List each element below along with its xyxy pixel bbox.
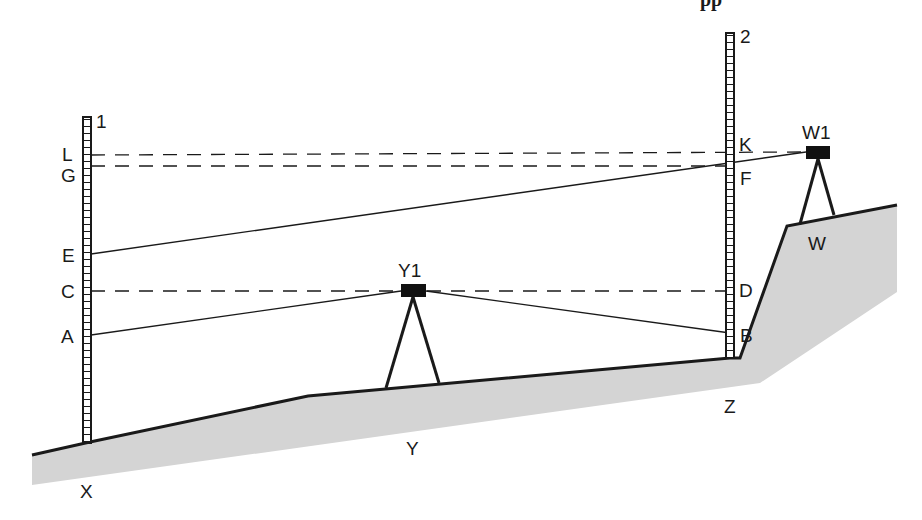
label-X: X xyxy=(80,481,93,502)
svg-text:1: 1 xyxy=(96,111,107,132)
staff-2: 2 xyxy=(726,26,751,358)
label-F: F xyxy=(740,168,752,189)
label-G: G xyxy=(61,165,76,186)
label-C: C xyxy=(61,281,75,302)
dashed-line-L-K xyxy=(91,152,806,155)
sight-line-A-Y1 xyxy=(91,291,401,335)
label-B: B xyxy=(740,325,753,346)
ground-surface xyxy=(32,205,897,485)
sight-line-E-W1 xyxy=(91,152,806,254)
label-L: L xyxy=(62,144,73,165)
label-E: E xyxy=(62,245,75,266)
label-A: A xyxy=(61,326,74,347)
leveling-diagram: pp 1 2 Y1 W1 L G E C A K xyxy=(0,0,922,520)
staff-1: 1 xyxy=(83,111,107,443)
label-Z: Z xyxy=(724,396,736,417)
label-K: K xyxy=(739,134,752,155)
label-W: W xyxy=(808,233,826,254)
label-Y: Y xyxy=(406,438,419,459)
cropped-title: pp xyxy=(700,0,722,11)
staff2-labels: K F D B xyxy=(739,134,753,346)
staff1-labels: L G E C A xyxy=(61,144,76,347)
svg-text:2: 2 xyxy=(740,26,751,47)
svg-text:Y1: Y1 xyxy=(398,260,421,281)
svg-text:W1: W1 xyxy=(802,122,831,143)
sight-line-Y1-B xyxy=(426,291,730,333)
svg-text:pp: pp xyxy=(700,0,722,11)
instrument-Y1: Y1 xyxy=(386,260,439,388)
instrument-W1: W1 xyxy=(800,122,834,224)
label-D: D xyxy=(739,280,753,301)
